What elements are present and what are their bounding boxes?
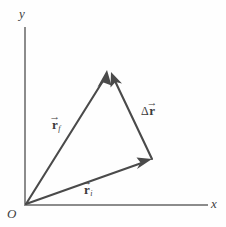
r-final-symbol: → r bbox=[52, 118, 58, 131]
r-final-subscript: f bbox=[58, 124, 60, 133]
vector-label-r-initial: → r i bbox=[84, 183, 93, 198]
delta-r-symbol: → r bbox=[149, 104, 155, 117]
vector-label-r-final: → r f bbox=[52, 118, 61, 133]
vector-label-delta-r: Δ → r bbox=[141, 104, 155, 117]
y-axis-label: y bbox=[19, 7, 25, 20]
r-initial-symbol: → r bbox=[84, 183, 90, 196]
r-initial-subscript: i bbox=[90, 189, 92, 198]
vector-accent-arrow-icon: → bbox=[146, 97, 157, 108]
origin-label: O bbox=[7, 207, 16, 220]
vector-diagram-figure: y x O → r f → r i Δ → r bbox=[0, 0, 226, 227]
vector-accent-arrow-icon: → bbox=[81, 176, 92, 187]
vector-r-final-shaft bbox=[26, 79, 105, 205]
x-axis-label: x bbox=[211, 197, 217, 210]
vector-accent-arrow-icon: → bbox=[49, 111, 60, 122]
vector-delta-r-shaft bbox=[115, 81, 152, 159]
vector-r-final-arrowhead bbox=[98, 70, 112, 87]
diagram-canvas bbox=[0, 0, 226, 227]
